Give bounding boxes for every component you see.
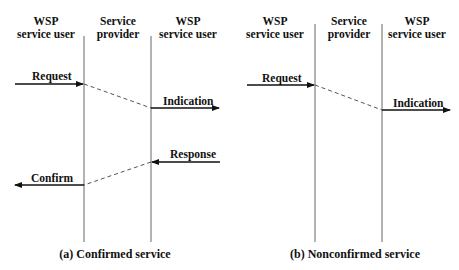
indication-label: Indication [393,97,444,110]
header-line1: WSP [377,15,457,28]
response-transit-dashed [84,162,151,185]
header-line1: WSP [235,15,315,28]
request-transit-dashed [84,84,151,108]
confirm-label: Confirm [31,172,73,185]
header-line1: WSP [148,15,228,28]
header-line1: Service [78,15,158,28]
column-header-user-left: WSP service user [6,15,86,41]
column-header-provider: Service provider [78,15,158,41]
request-label: Request [262,72,302,85]
header-line2: service user [148,28,228,41]
header-line2: service user [377,28,457,41]
request-label: Request [32,70,72,83]
caption-b: (b) Nonconfirmed service [280,247,430,261]
caption-a: (a) Confirmed service [40,247,190,261]
column-header-user-right: WSP service user [148,15,228,41]
diagram-a [15,36,220,242]
header-line2: service user [235,28,315,41]
header-line1: WSP [6,15,86,28]
header-line2: provider [78,28,158,41]
response-label: Response [170,148,216,161]
indication-label: Indication [163,95,214,108]
column-header-user-left: WSP service user [235,15,315,41]
request-transit-dashed [315,85,382,110]
header-line2: service user [6,28,86,41]
column-header-user-right: WSP service user [377,15,457,41]
diagram-b [247,24,450,242]
